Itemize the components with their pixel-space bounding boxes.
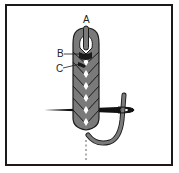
label-a: A <box>83 14 90 25</box>
label-c: C <box>56 63 63 74</box>
stitch-diagram: A B C <box>0 0 179 173</box>
label-b: B <box>57 48 64 59</box>
fishbone-stitch <box>73 26 99 130</box>
